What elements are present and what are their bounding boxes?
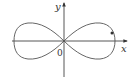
origin-label: 0 [57, 48, 63, 58]
lemniscate-diagram: y x 0 [0, 0, 132, 77]
x-axis-label: x [121, 43, 127, 54]
marked-point [111, 32, 114, 35]
y-axis-label: y [54, 1, 61, 12]
